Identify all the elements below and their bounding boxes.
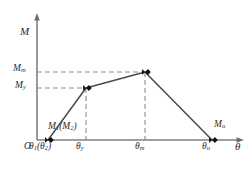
point-label-moment-initial: M1(M2) (48, 122, 77, 132)
y-axis-label: M (20, 26, 29, 37)
x-tick-rotation-ultimate-sub: u (207, 144, 210, 151)
x-tick-rotation-initial: θ1(θ2) (29, 142, 51, 152)
y-tick-moment-yield-sub: y (23, 83, 26, 90)
point-moment-initial-base: M (48, 121, 56, 131)
y-tick-moment-max-base: M (13, 63, 21, 73)
y-tick-moment-max: Mm (13, 64, 26, 74)
y-tick-moment-max-sub: m (21, 66, 26, 73)
x-tick-rotation-max: θm (135, 142, 144, 152)
x-tick-rotation-max-sub: m (140, 144, 145, 151)
y-tick-moment-yield-base: M (15, 80, 23, 90)
y-axis (34, 13, 40, 140)
point-moment-ultimate-base: M (214, 119, 222, 129)
y-tick-moment-yield: My (15, 81, 26, 91)
x-tick-paren-close: ) (48, 141, 51, 151)
x-tick-rotation-ultimate: θu (202, 142, 210, 152)
x-tick-rotation-yield-sub: y (81, 144, 84, 151)
point-moment-ultimate-sub: u (222, 122, 225, 129)
x-tick-rotation-yield: θy (76, 142, 84, 152)
point-paren-close: ) (73, 121, 76, 131)
point-label-moment-ultimate: Mu (214, 120, 225, 130)
moment-rotation-diagram: M θ O Mm My θ1(θ2) θy θm θu M1(M2) Mu (0, 0, 252, 171)
x-axis-label: θ (235, 141, 240, 152)
